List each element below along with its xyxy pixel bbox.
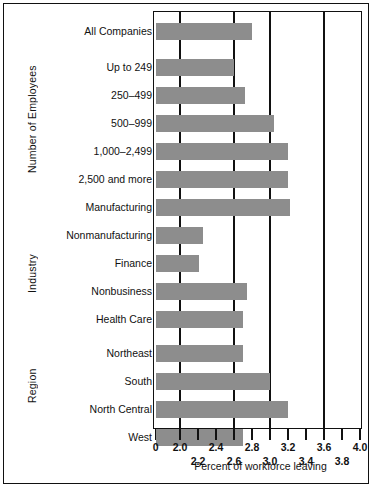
bar-10 xyxy=(156,311,243,328)
tick-3-8 xyxy=(341,429,342,440)
tick-label-4: 4.0 xyxy=(344,441,376,453)
bar-0 xyxy=(156,23,252,40)
tick-0 xyxy=(155,429,156,440)
bar-4 xyxy=(156,143,288,160)
bar-1 xyxy=(156,59,234,76)
category-label-3: 500–999 xyxy=(2,117,152,129)
tick-3-2 xyxy=(287,429,288,440)
tick-label-2: 2.0 xyxy=(164,441,196,453)
bar-2 xyxy=(156,87,245,104)
category-label-4: 1,000–2,499 xyxy=(2,145,152,157)
gridline-3 xyxy=(269,11,270,429)
bar-7 xyxy=(156,227,204,244)
bar-3 xyxy=(156,115,275,132)
bar-6 xyxy=(156,199,290,216)
tick-label-2-8: 2.8 xyxy=(236,441,268,453)
category-label-5: 2,500 and more xyxy=(2,173,152,185)
category-label-column: All CompaniesUp to 249250–499500–9991,00… xyxy=(4,4,152,485)
category-label-0: All Companies xyxy=(2,25,152,37)
category-label-6: Manufacturing xyxy=(2,201,152,213)
gridline-3-6 xyxy=(323,11,324,429)
category-label-10: Health Care xyxy=(2,313,152,325)
tick-label-2-4: 2.4 xyxy=(200,441,232,453)
tick-3-6 xyxy=(323,429,324,440)
bar-13 xyxy=(156,401,288,418)
tick-2-2 xyxy=(197,429,198,440)
x-axis-title: Percent of workforce leaving xyxy=(153,460,368,472)
category-label-8: Finance xyxy=(2,257,152,269)
category-label-11: Northeast xyxy=(2,347,152,359)
tick-2-6 xyxy=(233,429,234,440)
category-label-7: Nonmanufacturing xyxy=(2,229,152,241)
bar-5 xyxy=(156,171,288,188)
tick-4 xyxy=(359,429,360,440)
bar-12 xyxy=(156,373,270,390)
tick-label-3-6: 3.6 xyxy=(308,441,340,453)
tick-3-4 xyxy=(305,429,306,440)
category-label-9: Nonbusiness xyxy=(2,285,152,297)
bar-8 xyxy=(156,255,199,272)
tick-2 xyxy=(179,429,180,440)
bar-9 xyxy=(156,283,248,300)
chart-figure: Number of Employees Industry Region All … xyxy=(3,3,369,484)
category-label-1: Up to 249 xyxy=(2,61,152,73)
bar-11 xyxy=(156,345,243,362)
tick-label-3-2: 3.2 xyxy=(272,441,304,453)
category-label-13: North Central xyxy=(2,403,152,415)
plot-area xyxy=(153,11,362,429)
tick-3 xyxy=(269,429,270,440)
tick-2-8 xyxy=(251,429,252,440)
category-label-2: 250–499 xyxy=(2,89,152,101)
category-label-12: South xyxy=(2,375,152,387)
category-label-14: West xyxy=(2,431,152,443)
tick-2-4 xyxy=(215,429,216,440)
x-axis: 02.02.42.83.23.64.02.22.63.03.43.8 xyxy=(153,429,362,485)
